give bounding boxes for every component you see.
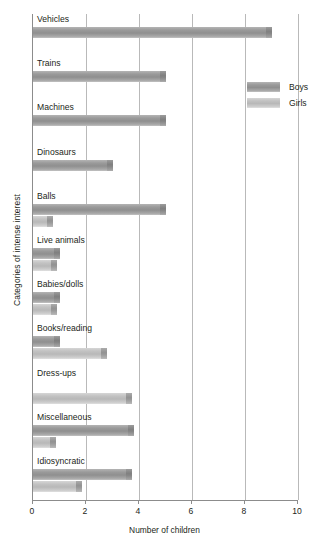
bar-boys — [33, 425, 134, 436]
x-tick-label-8: 8 — [234, 506, 254, 516]
category-group: Books/reading — [33, 323, 298, 367]
bar-cap — [50, 437, 56, 448]
category-group: Balls — [33, 191, 298, 235]
x-axis-line — [32, 500, 297, 501]
bar-cap — [107, 160, 113, 171]
legend-item-girls: Girls — [247, 98, 308, 108]
bar-cap — [76, 481, 82, 492]
category-label: Live animals — [37, 235, 85, 246]
category-group: Idiosyncratic — [33, 456, 298, 500]
bar-boys — [33, 27, 272, 38]
bar-boys — [33, 292, 60, 303]
category-group: Dinosaurs — [33, 147, 298, 191]
bar-girls — [33, 348, 107, 359]
x-axis-title: Number of children — [32, 525, 297, 535]
bar-cap — [160, 71, 166, 82]
x-tick-2 — [85, 500, 86, 504]
category-label: Babies/dolls — [37, 279, 83, 290]
category-label: Vehicles — [37, 14, 69, 25]
legend-swatch-boys — [247, 82, 280, 92]
bar-girls — [33, 481, 82, 492]
category-label: Machines — [37, 102, 74, 113]
x-tick-label-6: 6 — [181, 506, 201, 516]
bar-cap — [51, 260, 57, 271]
bar-cap — [266, 27, 272, 38]
category-label: Dinosaurs — [37, 147, 76, 158]
x-tick-label-0: 0 — [22, 506, 42, 516]
category-label: Idiosyncratic — [37, 456, 85, 467]
category-label: Dress-ups — [37, 368, 76, 379]
x-tick-label-10: 10 — [287, 506, 307, 516]
bar-girls — [33, 304, 57, 315]
bar-cap — [54, 292, 60, 303]
legend-label-boys: Boys — [289, 82, 308, 92]
legend-item-boys: Boys — [247, 82, 308, 92]
bar-boys — [33, 160, 113, 171]
x-tick-8 — [244, 500, 245, 504]
bar-girls — [33, 216, 53, 227]
bar-cap — [128, 425, 134, 436]
bar-cap — [54, 336, 60, 347]
category-label: Books/reading — [37, 323, 92, 334]
bar-cap — [101, 348, 107, 359]
bar-cap — [54, 248, 60, 259]
chart-legend: Boys Girls — [247, 82, 308, 114]
y-axis-title: Categories of intense interest — [12, 170, 22, 330]
bar-girls — [33, 260, 57, 271]
category-group: Babies/dolls — [33, 279, 298, 323]
bar-boys — [33, 204, 166, 215]
bar-cap — [47, 216, 53, 227]
legend-label-girls: Girls — [289, 98, 307, 108]
x-tick-0 — [32, 500, 33, 504]
bar-chart: Categories of intense interest VehiclesT… — [0, 0, 313, 551]
x-tick-label-2: 2 — [75, 506, 95, 516]
bar-boys — [33, 71, 166, 82]
category-label: Miscellaneous — [37, 412, 91, 423]
bar-girls — [33, 437, 56, 448]
legend-swatch-girls — [247, 98, 280, 108]
category-group: Dress-ups — [33, 368, 298, 412]
bar-cap — [126, 393, 132, 404]
bar-cap — [160, 204, 166, 215]
plot-area: VehiclesTrainsMachinesDinosaursBallsLive… — [32, 14, 298, 500]
category-group: Miscellaneous — [33, 412, 298, 456]
bar-girls — [33, 393, 132, 404]
category-group: Live animals — [33, 235, 298, 279]
x-tick-4 — [138, 500, 139, 504]
bar-cap — [51, 304, 57, 315]
category-label: Balls — [37, 191, 56, 202]
bar-cap — [160, 115, 166, 126]
x-tick-label-4: 4 — [128, 506, 148, 516]
category-label: Trains — [37, 58, 61, 69]
bar-boys — [33, 336, 60, 347]
bar-cap — [126, 469, 132, 480]
bar-boys — [33, 469, 132, 480]
category-group: Vehicles — [33, 14, 298, 58]
x-tick-10 — [297, 500, 298, 504]
x-tick-6 — [191, 500, 192, 504]
bar-boys — [33, 248, 60, 259]
bar-boys — [33, 115, 166, 126]
